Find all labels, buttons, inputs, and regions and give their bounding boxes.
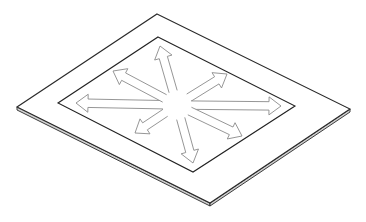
diagram-stage [0, 0, 366, 222]
isometric-plate-diagram [0, 0, 366, 222]
